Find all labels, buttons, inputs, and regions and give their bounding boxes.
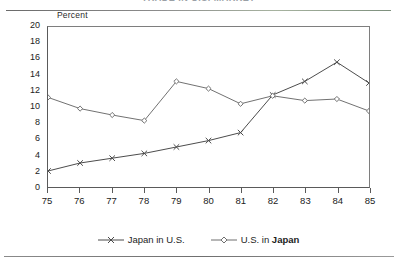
x-axis-tick-label: 81 [228, 196, 254, 206]
legend-item[interactable]: Japan in U.S. [98, 234, 185, 245]
y-axis-tick-label: 6 [18, 134, 40, 143]
data-point-marker [78, 106, 83, 111]
x-axis-tick-label: 77 [99, 196, 125, 206]
data-point-marker [238, 101, 243, 106]
y-axis-tick-label: 12 [18, 86, 40, 95]
x-axis-tick-mark [112, 188, 113, 193]
page-title-partial: TRADE IN U.S. MARKET [0, 0, 397, 3]
x-axis-tick-label: 83 [292, 196, 318, 206]
diamond-marker-icon [211, 235, 237, 245]
data-point-marker [334, 59, 340, 65]
legend-label: U.S. in Japan [241, 234, 300, 245]
x-marker-icon [98, 235, 124, 245]
x-axis-tick-label: 78 [131, 196, 157, 206]
x-axis-tick-label: 80 [196, 196, 222, 206]
x-axis-tick-mark [209, 188, 210, 193]
data-point-marker [366, 80, 369, 86]
series-u-s-in-japan [48, 79, 369, 123]
data-point-marker [48, 95, 51, 100]
x-axis-tick-mark [241, 188, 242, 193]
chart-figure: TRADE IN U.S. MARKET Percent 02468101214… [0, 0, 397, 266]
series-canvas [48, 27, 369, 187]
data-point-marker [110, 112, 115, 117]
legend-item[interactable]: U.S. in Japan [211, 234, 300, 245]
y-axis-tick-label: 18 [18, 37, 40, 46]
x-axis-tick-mark [338, 188, 339, 193]
y-axis-title: Percent [57, 10, 88, 20]
series-japan-in-u-s [48, 59, 369, 173]
y-axis-tick-label: 16 [18, 53, 40, 62]
data-point-marker [302, 98, 307, 103]
x-axis-tick-mark [305, 188, 306, 193]
x-axis-tick-mark [47, 188, 48, 193]
y-axis-tick-label: 14 [18, 70, 40, 79]
y-axis-tick-label: 4 [18, 151, 40, 160]
data-point-marker [366, 108, 369, 113]
x-axis-tick-mark [144, 188, 145, 193]
y-axis-tick-label: 0 [18, 183, 40, 192]
y-axis-tick-label: 8 [18, 118, 40, 127]
x-axis-tick-label: 75 [34, 196, 60, 206]
x-axis-tick-label: 85 [357, 196, 383, 206]
x-axis-tick-mark [176, 188, 177, 193]
x-axis-tick-label: 82 [260, 196, 286, 206]
y-axis-tick-label: 2 [18, 167, 40, 176]
data-point-marker [206, 86, 211, 91]
data-point-marker [302, 79, 308, 85]
data-point-marker [334, 96, 339, 101]
x-axis-tick-label: 84 [325, 196, 351, 206]
x-axis-tick-mark [370, 188, 371, 193]
legend-label: Japan in U.S. [128, 234, 185, 245]
y-axis-tick-label: 20 [18, 21, 40, 30]
x-axis-tick-mark [79, 188, 80, 193]
chart-legend: Japan in U.S.U.S. in Japan [0, 234, 397, 245]
x-axis-tick-label: 76 [66, 196, 92, 206]
x-axis-tick-mark [273, 188, 274, 193]
x-axis-tick-label: 79 [163, 196, 189, 206]
plot-area [47, 26, 370, 188]
y-axis-tick-label: 10 [18, 102, 40, 111]
horizontal-rule-bottom [4, 256, 394, 257]
